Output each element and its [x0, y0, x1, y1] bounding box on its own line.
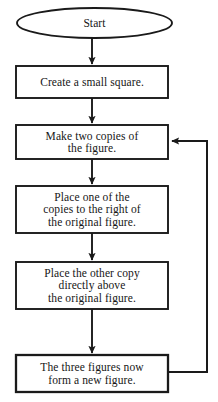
- node-create-square-shape: [16, 66, 168, 98]
- node-place-above-shape: [16, 262, 168, 309]
- edge-loop-back: [168, 141, 207, 372]
- node-make-copies-shape: [16, 125, 168, 159]
- flowchart-canvas: [0, 0, 218, 402]
- node-place-right-shape: [16, 186, 168, 233]
- node-new-figure-shape: [16, 355, 168, 392]
- node-start-shape: [17, 8, 172, 38]
